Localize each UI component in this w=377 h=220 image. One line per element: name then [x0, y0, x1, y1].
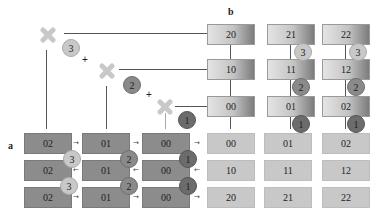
arrow-right-icon: → [73, 140, 79, 147]
step-circle-1: 1 [292, 115, 310, 133]
multiply-x-icon [40, 27, 56, 43]
connector-line-row-20 [64, 33, 207, 34]
connector-vline-col-02 [46, 50, 47, 129]
step-circle-1: 1 [178, 111, 196, 129]
panel-b-label: b [228, 6, 234, 17]
b-arrow-down [290, 117, 291, 129]
b-top-box-10: 10 [207, 59, 255, 80]
step-circle-1: 1 [179, 150, 197, 168]
arrow-left-icon: ← [133, 167, 139, 174]
arrow-right-icon: → [194, 140, 200, 147]
connector-line-row-00 [175, 106, 207, 107]
connector-line-row-10 [119, 69, 207, 70]
plus-sign: + [146, 89, 152, 100]
b-top-box-11: 11 [267, 59, 315, 80]
b-grid-box-20: 20 [207, 187, 255, 208]
b-arrow-down [345, 80, 346, 96]
arrow-left-icon: ← [194, 167, 200, 174]
panel-a-label: a [8, 140, 13, 151]
arrow-right-icon: → [73, 194, 79, 201]
b-top-box-22: 22 [322, 24, 370, 45]
b-top-box-12: 12 [322, 59, 370, 80]
b-arrow-down [345, 117, 346, 129]
b-arrow-down [345, 45, 346, 59]
b-grid-box-02: 02 [322, 133, 370, 154]
a-box-r0-c0: 02 [24, 133, 72, 154]
step-circle-3: 3 [60, 177, 78, 195]
arrow-left-icon: ← [73, 167, 79, 174]
step-circle-2: 2 [292, 78, 310, 96]
step-circle-3: 3 [294, 43, 312, 61]
step-circle-2: 2 [347, 78, 365, 96]
multiply-x-icon [99, 63, 115, 79]
step-circle-3: 3 [349, 43, 367, 61]
connector-vline-col-00 [165, 113, 166, 129]
step-circle-3: 3 [63, 150, 81, 168]
b-arrow-down [290, 45, 291, 59]
b-arrow-down [230, 117, 231, 129]
b-grid-box-00: 00 [207, 133, 255, 154]
step-circle-1: 1 [347, 115, 365, 133]
b-grid-box-11: 11 [264, 160, 312, 181]
b-grid-box-22: 22 [322, 187, 370, 208]
arrow-right-icon: → [133, 140, 139, 147]
b-top-box-21: 21 [267, 24, 315, 45]
arrow-right-icon: → [133, 194, 139, 201]
b-arrow-down [290, 80, 291, 96]
b-arrow-down [230, 45, 231, 59]
b-top-box-20: 20 [207, 24, 255, 45]
b-top-box-00: 00 [207, 96, 255, 117]
b-grid-box-10: 10 [207, 160, 255, 181]
step-circle-2: 2 [120, 150, 138, 168]
b-grid-box-01: 01 [264, 133, 312, 154]
step-circle-1: 1 [179, 177, 197, 195]
b-grid-box-21: 21 [264, 187, 312, 208]
multiply-x-icon [157, 99, 173, 115]
arrow-right-icon: → [194, 194, 200, 201]
connector-vline-col-01 [106, 86, 107, 129]
b-top-box-01: 01 [267, 96, 315, 117]
step-circle-2: 2 [120, 177, 138, 195]
step-circle-3: 3 [62, 39, 80, 57]
plus-sign: + [82, 54, 88, 65]
b-grid-box-12: 12 [322, 160, 370, 181]
step-circle-2: 2 [123, 76, 141, 94]
b-top-box-02: 02 [322, 96, 370, 117]
b-arrow-down [230, 80, 231, 96]
